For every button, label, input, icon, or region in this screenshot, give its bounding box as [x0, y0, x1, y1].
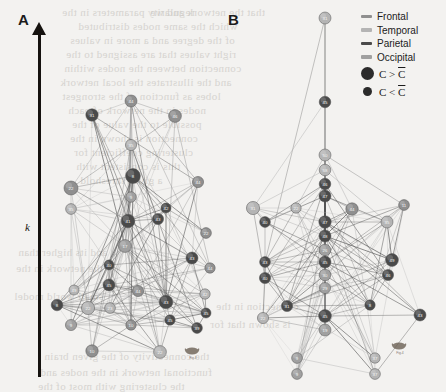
node-highlight [321, 179, 326, 184]
network-node[interactable]: 45 [319, 310, 332, 323]
legend: Frontal Temporal Parietal Occipital C > … [361, 10, 445, 100]
network-edge [325, 315, 420, 316]
figure-canvas: regularity parameters in thethat the net… [0, 0, 446, 392]
node-highlight [387, 255, 393, 261]
node-highlight [320, 191, 326, 197]
publisher-watermark-b: Fig.4 [390, 340, 410, 356]
node-highlight [261, 218, 266, 223]
node-highlight [293, 354, 298, 359]
publisher-watermark-a: Fig.4 [183, 345, 203, 361]
network-node[interactable]: 45 [319, 96, 331, 108]
legend-node-small-icon [363, 87, 372, 96]
node-highlight [382, 217, 388, 223]
network-node[interactable]: 19 [319, 324, 331, 336]
legend-item-c-greater: C > C [361, 66, 445, 82]
node-highlight [371, 354, 376, 359]
network-node[interactable]: 9 [292, 369, 303, 380]
node-highlight [321, 270, 326, 275]
node-highlight [261, 274, 266, 279]
node-highlight [261, 258, 266, 263]
node-highlight [320, 257, 326, 263]
network-node[interactable]: 22 [291, 203, 301, 213]
node-highlight [320, 13, 326, 19]
node-highlight [321, 245, 326, 250]
node-highlight [320, 311, 326, 317]
network-edge [265, 236, 325, 262]
network-node[interactable]: 47 [319, 190, 331, 202]
network-node[interactable]: 43 [260, 257, 271, 268]
network-node[interactable]: 40 [259, 272, 270, 283]
network-edge [287, 305, 370, 306]
legend-label-occipital: Occipital [377, 52, 415, 63]
network-node[interactable]: 50 [319, 149, 331, 161]
node-highlight [320, 231, 326, 237]
network-node[interactable]: 31 [319, 12, 331, 24]
legend-node-large-icon [361, 67, 374, 80]
network-node[interactable]: 48 [319, 230, 331, 242]
node-highlight [283, 302, 288, 307]
watermark-text-a: Fig.4 [189, 356, 197, 360]
network-edge [253, 170, 325, 208]
network-node[interactable]: 47 [319, 216, 331, 228]
network-node[interactable]: 49 [386, 254, 399, 267]
network-node[interactable]: 58 [319, 164, 331, 176]
legend-dash-parietal [361, 42, 372, 46]
legend-label-temporal: Temporal [377, 25, 418, 36]
network-edge [265, 278, 325, 330]
node-highlight [320, 217, 326, 223]
network-edge [265, 18, 325, 262]
network-node[interactable]: 8 [365, 300, 375, 310]
legend-dash-occipital [361, 55, 372, 59]
network-edge [265, 262, 287, 306]
node-highlight [320, 325, 326, 331]
network-node[interactable]: 35 [381, 216, 393, 228]
legend-item-occipital: Occipital [361, 51, 445, 64]
node-highlight [347, 204, 353, 210]
network-node[interactable]: 9 [292, 353, 303, 364]
network-node[interactable]: 26 [319, 244, 331, 256]
legend-dash-temporal [361, 28, 372, 32]
legend-label-frontal: Frontal [377, 11, 408, 22]
node-highlight [259, 314, 264, 319]
network-node[interactable]: 29 [319, 282, 330, 293]
legend-dash-frontal [361, 15, 372, 19]
network-node[interactable]: 46 [382, 269, 393, 280]
network-node[interactable]: 30 [319, 269, 331, 281]
node-highlight [400, 201, 405, 206]
node-highlight [293, 370, 298, 375]
node-highlight [320, 150, 326, 156]
network-node[interactable]: 11 [399, 200, 410, 211]
node-highlight [415, 310, 421, 316]
network-edge [325, 170, 387, 222]
legend-label-parietal: Parietal [377, 38, 411, 49]
network-node[interactable]: 45 [319, 256, 331, 268]
legend-item-temporal: Temporal [361, 24, 445, 37]
network-node[interactable]: 44 [346, 203, 358, 215]
network-node[interactable]: 31 [281, 300, 292, 311]
network-node[interactable]: 40 [260, 217, 271, 228]
network-node[interactable]: 31 [246, 201, 259, 214]
network-edge [263, 318, 325, 330]
node-highlight [321, 97, 326, 102]
node-highlight [321, 165, 326, 170]
node-highlight [366, 301, 371, 306]
node-highlight [248, 203, 254, 209]
legend-item-parietal: Parietal [361, 37, 445, 50]
network-node[interactable]: 37 [370, 353, 380, 363]
legend-label-c-greater: C > C [379, 68, 405, 80]
watermark-text-b: Fig.4 [396, 351, 404, 355]
network-edge [253, 102, 325, 208]
legend-label-c-less: C < C [379, 86, 405, 98]
node-highlight [292, 204, 297, 209]
legend-item-frontal: Frontal [361, 10, 445, 23]
network-node[interactable]: 22 [257, 312, 268, 323]
node-highlight [321, 284, 326, 289]
legend-item-c-less: C < C [361, 84, 445, 100]
network-node[interactable]: 37 [370, 369, 381, 380]
network-node[interactable]: 43 [414, 309, 426, 321]
node-highlight [371, 370, 376, 375]
network-node[interactable]: 46 [319, 178, 331, 190]
network-edge [263, 318, 297, 374]
node-highlight [384, 271, 389, 276]
network-edge [263, 275, 325, 318]
